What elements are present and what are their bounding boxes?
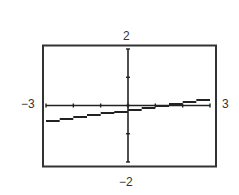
axes [46,49,210,162]
graph-window [0,0,239,195]
